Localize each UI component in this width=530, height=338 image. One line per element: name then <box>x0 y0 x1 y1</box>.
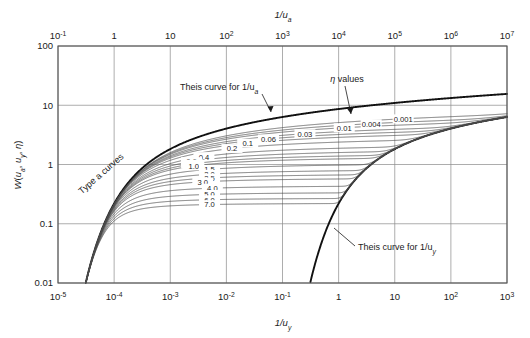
curve-label: 0.03 <box>298 130 313 139</box>
svg-text:1: 1 <box>336 291 341 302</box>
curve-label: 0.2 <box>227 144 238 153</box>
svg-text:0.01: 0.01 <box>35 277 54 288</box>
neuman-type-curve-chart: 10-111010210310410510610710-510-410-310-… <box>0 0 530 338</box>
annotation-eta-values: η values <box>330 74 364 84</box>
svg-text:1: 1 <box>111 30 116 41</box>
curve-label: 7.0 <box>204 200 215 209</box>
curve-label: 0.004 <box>362 120 381 129</box>
svg-text:10: 10 <box>42 100 53 111</box>
curve-label: 1.0 <box>189 162 200 171</box>
svg-text:0.1: 0.1 <box>40 218 53 229</box>
type-curve-figure: 10-111010210310410510610710-510-410-310-… <box>0 0 530 338</box>
svg-text:10: 10 <box>165 30 176 41</box>
curve-label: 0.001 <box>394 115 413 124</box>
curve-label: 0.1 <box>242 139 253 148</box>
svg-text:10: 10 <box>389 291 400 302</box>
svg-text:1: 1 <box>48 159 53 170</box>
curve-label: 0.06 <box>261 135 276 144</box>
svg-text:100: 100 <box>37 40 53 51</box>
chart-background <box>0 0 530 338</box>
curve-label: 0.01 <box>337 124 352 133</box>
